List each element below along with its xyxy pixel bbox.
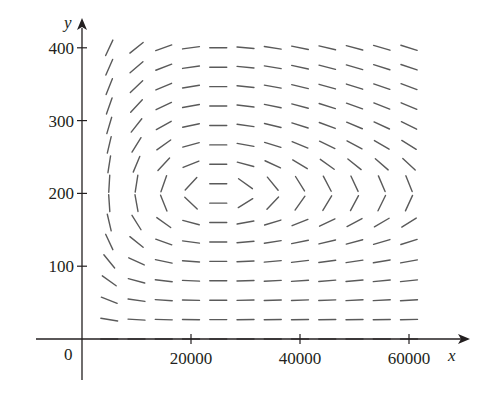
slope-segment — [292, 260, 309, 262]
slope-segment — [295, 196, 305, 210]
slope-segment — [161, 176, 167, 192]
slope-segment — [346, 260, 363, 263]
slope-segment — [135, 195, 138, 212]
slope-segment — [183, 161, 199, 167]
slope-segment — [401, 239, 417, 244]
slope-segment — [319, 300, 336, 301]
slope-segment — [130, 237, 143, 248]
slope-segment — [351, 176, 358, 191]
slope-segment — [319, 84, 335, 89]
slope-segment — [292, 85, 309, 89]
slope-segment — [156, 102, 171, 109]
slope-segment — [374, 65, 390, 70]
slope-segment — [320, 141, 335, 148]
slope-segment — [319, 65, 335, 69]
slope-segment — [264, 66, 281, 69]
slope-segment — [265, 142, 281, 147]
slope-segment — [237, 66, 254, 68]
slope-segment — [374, 103, 390, 109]
slope-segment — [374, 122, 389, 129]
slope-segment — [128, 319, 145, 320]
slope-segment — [237, 281, 254, 282]
slope-segment — [157, 218, 171, 228]
y-axis-label: y — [62, 13, 72, 32]
x-tick-label: 20000 — [170, 349, 213, 368]
slope-segment — [183, 143, 199, 147]
slope-segment — [185, 197, 197, 209]
slope-segment — [156, 121, 171, 129]
direction-field-chart: 200004000060000100200300400 x y 0 — [0, 0, 480, 397]
slope-segment — [323, 196, 332, 211]
slope-segment — [267, 197, 279, 209]
slope-segment — [101, 318, 118, 321]
slope-segment — [374, 45, 390, 50]
x-axis-label: x — [447, 346, 456, 365]
slope-segment — [374, 141, 389, 150]
slope-segment — [346, 103, 362, 109]
slope-segment — [402, 218, 416, 227]
slope-segment — [106, 98, 112, 114]
slope-segment — [293, 160, 308, 169]
slope-segment — [320, 159, 334, 169]
slope-segment — [239, 179, 253, 189]
slope-segment — [128, 299, 145, 301]
slope-segment — [292, 300, 309, 301]
slope-segment — [132, 215, 141, 229]
slope-segment — [237, 221, 254, 224]
slope-segment — [156, 45, 172, 51]
slope-segment — [401, 103, 417, 110]
slope-segment — [403, 158, 415, 170]
slope-segment — [156, 239, 172, 245]
slope-segment — [133, 156, 140, 172]
slope-segment — [264, 85, 281, 88]
slope-segment — [238, 199, 252, 208]
slope-segment — [106, 40, 113, 55]
y-tick-label: 200 — [49, 184, 75, 203]
slope-segment — [267, 177, 278, 190]
slope-segment — [183, 280, 200, 281]
slope-segment — [405, 195, 412, 210]
slope-segment — [161, 195, 167, 211]
x-tick-label: 40000 — [279, 349, 322, 368]
slope-segment — [320, 219, 335, 226]
slope-segment — [292, 142, 308, 148]
y-tick-label: 300 — [49, 112, 75, 131]
slope-segment — [348, 159, 361, 170]
slope-segment — [131, 119, 142, 132]
slope-segment — [264, 123, 281, 127]
slope-segment — [350, 196, 358, 211]
slope-segment — [346, 280, 363, 282]
slope-segment — [183, 241, 200, 243]
y-tick-label: 100 — [49, 257, 75, 276]
slope-segment — [401, 84, 417, 90]
slope-segment — [237, 261, 254, 262]
slope-segment — [319, 122, 335, 128]
slope-segment — [104, 255, 115, 268]
slope-segment — [319, 103, 335, 108]
slope-segment — [156, 83, 172, 90]
slope-segment — [373, 280, 390, 282]
slope-segment — [130, 81, 142, 93]
slope-segment — [185, 178, 197, 190]
slope-segment — [264, 104, 281, 107]
slope-segment — [346, 84, 362, 89]
origin-label: 0 — [64, 345, 73, 364]
slope-segment — [346, 65, 362, 70]
slope-segment — [292, 240, 309, 243]
slope-segment — [374, 240, 390, 245]
slope-segment — [373, 260, 390, 263]
slope-segment — [378, 176, 385, 192]
slope-segment — [401, 65, 417, 70]
x-tick-label: 60000 — [388, 349, 431, 368]
slope-segment — [106, 79, 112, 95]
slope-segment — [106, 59, 113, 75]
slope-segment — [237, 124, 254, 126]
slope-segment — [237, 241, 254, 243]
slope-segment — [106, 234, 113, 249]
slope-segment — [155, 260, 172, 263]
slope-segment — [109, 195, 110, 212]
slope-segment — [237, 143, 254, 146]
slope-segment — [109, 175, 110, 192]
slope-segment — [130, 62, 143, 73]
slope-segment — [346, 300, 363, 301]
